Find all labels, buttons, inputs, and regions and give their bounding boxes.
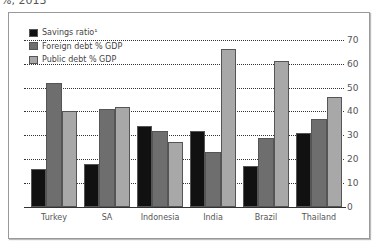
- y-tick-label: 40: [347, 106, 358, 116]
- bar: [221, 49, 236, 207]
- y-tick-label: 20: [347, 154, 358, 164]
- bar: [274, 61, 289, 207]
- bar: [99, 109, 114, 207]
- legend: Savings ratio¹ Foreign debt % GDP Public…: [29, 26, 122, 67]
- x-category-label: Indonesia: [134, 213, 186, 222]
- bar: [190, 131, 205, 207]
- bar: [168, 142, 183, 207]
- x-category-label: India: [187, 213, 239, 222]
- bar: [258, 138, 273, 207]
- bar: [152, 131, 167, 207]
- x-axis: [24, 207, 346, 208]
- y-tick-label: 30: [347, 130, 358, 140]
- bar: [84, 164, 99, 207]
- bar: [311, 119, 326, 207]
- x-category-label: Thailand: [293, 213, 345, 222]
- legend-swatch: [29, 29, 38, 37]
- y-tick-label: 0: [347, 202, 353, 212]
- legend-item-savings: Savings ratio¹: [29, 26, 122, 40]
- legend-label: Foreign debt % GDP: [42, 42, 122, 51]
- bar: [327, 97, 342, 207]
- legend-swatch: [29, 56, 38, 64]
- gridline: [24, 88, 344, 89]
- bar: [137, 126, 152, 207]
- bar: [46, 83, 61, 207]
- bar: [31, 169, 46, 207]
- y-tick-label: 10: [347, 178, 358, 188]
- legend-label: Savings ratio¹: [42, 28, 97, 37]
- legend-label: Public debt % GDP: [42, 55, 116, 64]
- legend-item-foreign-debt: Foreign debt % GDP: [29, 40, 122, 54]
- x-category-label: Brazil: [240, 213, 292, 222]
- x-category-label: SA: [81, 213, 133, 222]
- bar: [62, 111, 77, 207]
- y-tick-label: 70: [347, 35, 358, 45]
- bar: [296, 133, 311, 207]
- bar: [115, 107, 130, 207]
- legend-swatch: [29, 42, 38, 50]
- x-category-label: Turkey: [28, 213, 80, 222]
- bar: [243, 166, 258, 207]
- y-tick-label: 60: [347, 59, 358, 69]
- bar: [205, 152, 220, 207]
- legend-item-public-debt: Public debt % GDP: [29, 53, 122, 67]
- y-tick-label: 50: [347, 83, 358, 93]
